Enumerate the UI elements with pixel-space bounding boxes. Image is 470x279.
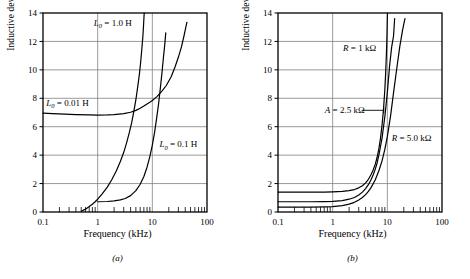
x-axis-label-a: Frequency (kHz) [0, 228, 235, 239]
x-tick-label: 10 [148, 217, 158, 227]
y-tick-label: 0 [33, 207, 38, 217]
plot-a: 024681012140.1110100L0 = 0.01 HL0 = 1.0 … [0, 0, 235, 235]
y-tick-label: 4 [268, 150, 273, 160]
panel-caption-b: (b) [235, 253, 470, 263]
y-axis-label-b: Inductive deviation (%) [241, 0, 257, 112]
y-tick-label: 2 [33, 179, 38, 189]
y-tick-label: 6 [33, 122, 38, 132]
y-tick-label: 6 [268, 122, 273, 132]
x-tick-label: 100 [435, 217, 449, 227]
x-tick-label: 1 [330, 217, 335, 227]
y-tick-label: 2 [268, 179, 273, 189]
y-axis-label-a: Inductive deviation (%) [6, 0, 22, 112]
x-axis-label-b: Frequency (kHz) [235, 228, 470, 239]
panel-b: 024681012140.1110100R = 1 kΩA = 2.5 kΩR … [235, 0, 470, 279]
x-tick-label: 0.1 [37, 217, 48, 227]
panel-caption-a: (a) [0, 253, 235, 263]
figure-container: 024681012140.1110100L0 = 0.01 HL0 = 1.0 … [0, 0, 470, 279]
y-tick-label: 12 [28, 37, 37, 47]
y-tick-label: 14 [263, 8, 273, 18]
data-curve [81, 13, 144, 211]
plot-b: 024681012140.1110100R = 1 kΩA = 2.5 kΩR … [235, 0, 470, 235]
curve-annotation: R = 1 kΩ [342, 43, 376, 53]
data-curve [98, 33, 166, 202]
y-tick-label: 10 [28, 65, 38, 75]
y-tick-label: 10 [263, 65, 273, 75]
curve-annotation: L0 = 0.01 H [45, 98, 89, 109]
curve-annotation: L0 = 0.1 H [158, 139, 197, 150]
y-tick-label: 8 [268, 93, 273, 103]
curve-annotation: A = 2.5 kΩ [324, 105, 365, 115]
y-tick-label: 8 [33, 93, 38, 103]
y-tick-label: 4 [33, 150, 38, 160]
x-tick-label: 100 [200, 217, 214, 227]
curve-annotation: R = 5.0 kΩ [391, 133, 432, 143]
x-tick-label: 10 [383, 217, 393, 227]
x-tick-label: 0.1 [272, 217, 283, 227]
y-tick-label: 0 [268, 207, 273, 217]
curve-annotation: L0 = 1.0 H [93, 18, 132, 29]
y-tick-label: 14 [28, 8, 38, 18]
panel-a: 024681012140.1110100L0 = 0.01 HL0 = 1.0 … [0, 0, 235, 279]
x-tick-label: 1 [95, 217, 100, 227]
y-tick-label: 12 [263, 37, 272, 47]
